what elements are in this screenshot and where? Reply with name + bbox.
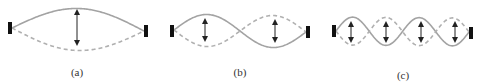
string-solid-c [336, 17, 469, 46]
panel-a [8, 8, 148, 50]
string-dashed-a [12, 28, 144, 51]
panel-label-c: (c) [397, 69, 409, 81]
fixed-end-left-b [170, 25, 174, 37]
string-solid-a [12, 8, 144, 31]
panel-c [332, 17, 473, 46]
standing-wave-figure: (a) (b) (c) [0, 0, 477, 83]
panel-label-a: (a) [71, 66, 83, 78]
fixed-end-right-a [144, 25, 148, 37]
fixed-end-left-a [8, 22, 12, 34]
fixed-end-left-c [332, 25, 336, 37]
fixed-end-right-c [469, 27, 473, 39]
panel-label-b: (b) [234, 66, 247, 78]
fixed-end-right-b [306, 26, 310, 38]
panel-b [170, 15, 310, 48]
